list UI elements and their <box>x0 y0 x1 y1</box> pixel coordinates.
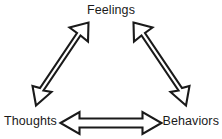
connector-thoughts-behaviors <box>61 112 162 134</box>
connector-thoughts-feelings <box>33 23 89 106</box>
node-label-thoughts: Thoughts <box>4 115 57 128</box>
connector-feelings-behaviors <box>134 23 190 106</box>
node-label-feelings: Feelings <box>0 4 222 17</box>
cbt-triangle-diagram: Feelings Thoughts Behaviors <box>0 0 222 139</box>
node-label-behaviors: Behaviors <box>163 115 220 128</box>
